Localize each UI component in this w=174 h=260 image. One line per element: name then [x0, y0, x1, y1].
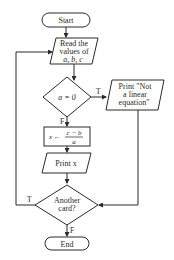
decision1-true-label: T: [96, 87, 101, 96]
end-label: End: [61, 240, 74, 249]
start-label: Start: [58, 16, 74, 25]
decision1-label: a = 0: [58, 93, 75, 102]
print-error-line-3: equation": [119, 98, 150, 107]
print-x-label: Print x: [55, 159, 77, 168]
assign-numerator: c − b: [67, 129, 82, 137]
assign-lhs: x ←: [48, 133, 61, 141]
decision2-line-2: card?: [58, 204, 76, 213]
decision1-false-label: F: [60, 117, 64, 126]
assign-denominator: a: [72, 138, 76, 146]
flowchart: Start Read the values of a, b, c a = 0 T…: [0, 0, 174, 260]
decision2-true-label: T: [27, 195, 32, 204]
decision2-false-label: F: [70, 226, 74, 235]
read-line-3: a, b, c: [63, 55, 83, 64]
